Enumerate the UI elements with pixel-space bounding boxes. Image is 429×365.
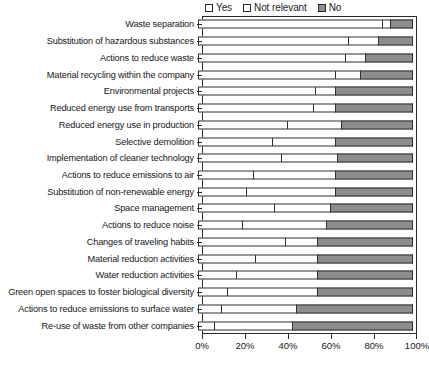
legend-label-not-relevant: Not relevant: [254, 3, 307, 13]
bar-segment-not-relevant: [228, 288, 318, 297]
x-axis-tick-label: 20%: [235, 340, 254, 351]
chart-row: Material recycling within the company: [0, 66, 417, 83]
stacked-bar: [198, 70, 413, 79]
bar-track: [198, 49, 413, 66]
bar-segment-not-relevant: [256, 254, 318, 263]
bar-track: [198, 217, 413, 234]
legend-item-no: No: [318, 3, 342, 13]
bar-segment-not-relevant: [215, 321, 292, 330]
x-axis-tick: [245, 334, 246, 339]
bar-segment-yes: [198, 271, 237, 280]
bar-segment-no: [391, 20, 413, 29]
stacked-bar: [198, 288, 413, 297]
bar-segment-not-relevant: [237, 271, 319, 280]
bar-segment-yes: [198, 170, 254, 179]
stacked-bar: [198, 187, 413, 196]
chart-row: Changes of traveling habits: [0, 234, 417, 251]
bar-track: [198, 284, 413, 301]
chart-row: Substitution of hazardous substances: [0, 33, 417, 50]
y-axis-tick: [197, 125, 202, 126]
y-axis-tick: [197, 158, 202, 159]
x-axis-tick-label: 40%: [278, 340, 297, 351]
category-label: Water reduction activities: [0, 270, 198, 280]
x-axis-tick-label: 0%: [195, 340, 209, 351]
chart-row: Waste separation: [0, 16, 417, 33]
y-axis-tick: [197, 175, 202, 176]
stacked-bar: [198, 154, 413, 163]
bar-segment-no: [342, 120, 413, 129]
bar-segment-no: [366, 53, 413, 62]
bar-segment-yes: [198, 137, 273, 146]
bar-segment-no: [327, 221, 413, 230]
bar-segment-no: [379, 37, 413, 46]
bar-track: [198, 183, 413, 200]
category-label: Substitution of hazardous substances: [0, 36, 198, 46]
legend-label-yes: Yes: [216, 3, 232, 13]
bar-segment-no: [336, 104, 413, 113]
bar-track: [198, 150, 413, 167]
stacked-bar: [198, 120, 413, 129]
chart-row: Re-use of waste from other companies: [0, 317, 417, 334]
category-label: Selective demolition: [0, 137, 198, 147]
x-axis: 0%20%40%60%80%100%: [202, 334, 417, 360]
y-axis-tick: [197, 75, 202, 76]
x-axis-tick-label: 100%: [405, 340, 429, 351]
category-label: Green open spaces to foster biological d…: [0, 287, 198, 297]
y-axis-tick: [197, 192, 202, 193]
chart-row: Material reduction activities: [0, 250, 417, 267]
x-axis-tick: [331, 334, 332, 339]
bar-segment-yes: [198, 87, 316, 96]
y-axis-tick: [197, 58, 202, 59]
bar-segment-not-relevant: [349, 37, 379, 46]
category-label: Actions to reduce emissions to surface w…: [0, 304, 198, 314]
x-axis-tick: [202, 334, 203, 339]
bar-track: [198, 66, 413, 83]
category-label: Substitution of non-renewable energy: [0, 187, 198, 197]
bar-segment-no: [318, 254, 413, 263]
category-label: Waste separation: [0, 19, 198, 29]
bar-segment-not-relevant: [314, 104, 336, 113]
chart-row: Selective demolition: [0, 133, 417, 150]
legend-swatch-not-relevant-icon: [243, 4, 251, 12]
bar-segment-no: [318, 237, 413, 246]
bar-segment-no: [293, 321, 413, 330]
category-label: Actions to reduce noise: [0, 220, 198, 230]
bar-segment-yes: [198, 187, 247, 196]
bar-segment-no: [361, 70, 413, 79]
bar-segment-not-relevant: [288, 120, 342, 129]
chart-row: Reduced energy use from transports: [0, 100, 417, 117]
y-axis-tick: [197, 259, 202, 260]
chart-row: Actions to reduce emissions to surface w…: [0, 301, 417, 318]
bar-segment-not-relevant: [346, 53, 365, 62]
bar-segment-not-relevant: [247, 187, 335, 196]
y-axis-tick: [197, 108, 202, 109]
category-label: Material recycling within the company: [0, 70, 198, 80]
stacked-bar: [198, 87, 413, 96]
chart-row: Space management: [0, 200, 417, 217]
bar-segment-no: [336, 170, 413, 179]
stacked-bar: [198, 204, 413, 213]
bar-segment-not-relevant: [222, 304, 297, 313]
stacked-bar: [198, 237, 413, 246]
stacked-bar: [198, 137, 413, 146]
y-axis-tick: [197, 309, 202, 310]
bar-segment-yes: [198, 104, 314, 113]
x-axis-tick: [374, 334, 375, 339]
chart-legend: Yes Not relevant No: [205, 1, 341, 15]
legend-item-yes: Yes: [205, 3, 232, 13]
bar-segment-not-relevant: [336, 70, 362, 79]
bar-segment-no: [331, 204, 413, 213]
bar-segment-no: [297, 304, 413, 313]
bar-segment-yes: [198, 53, 346, 62]
legend-swatch-no-icon: [318, 4, 326, 12]
bar-segment-yes: [198, 20, 383, 29]
stacked-bar: [198, 304, 413, 313]
y-axis-tick: [197, 91, 202, 92]
stacked-bar: [198, 104, 413, 113]
bar-segment-yes: [198, 221, 243, 230]
bar-segment-yes: [198, 120, 288, 129]
bar-segment-yes: [198, 204, 275, 213]
stacked-bar: [198, 254, 413, 263]
bar-segment-yes: [198, 37, 349, 46]
